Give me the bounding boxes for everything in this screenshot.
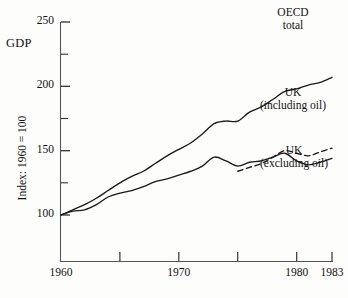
y-tick-label-100: 100 [18,207,54,219]
y-axis-ticks [61,22,70,215]
series-label-ukexc-line1: UK [248,144,340,157]
x-tick-label-1970: 1970 [159,266,199,278]
series-label-ukexc-line2: (excluding oil) [248,157,340,170]
series-label-ukinc-line2: (including oil) [248,99,338,112]
axes-group [61,22,334,262]
series-label-uk-including-oil: UK (including oil) [248,86,338,112]
gdp-label: GDP [6,36,32,51]
y-axis-title: Index: 1960 = 100 [16,98,28,218]
y-tick-label-200: 200 [18,78,54,90]
y-tick-label-150: 150 [18,143,54,155]
series-label-oecd-line1: OECD [255,6,331,19]
series-label-ukinc-line1: UK [248,86,338,99]
x-tick-label-1983: 1983 [312,266,348,278]
x-axis-ticks [120,252,332,261]
series-label-oecd-total: OECD total [255,6,331,32]
series-label-uk-excluding-oil: UK (excluding oil) [248,144,340,170]
y-tick-label-250: 250 [18,14,54,26]
x-tick-label-1980: 1980 [277,266,317,278]
series-label-oecd-line2: total [255,19,331,32]
x-tick-label-1960: 1960 [41,266,81,278]
